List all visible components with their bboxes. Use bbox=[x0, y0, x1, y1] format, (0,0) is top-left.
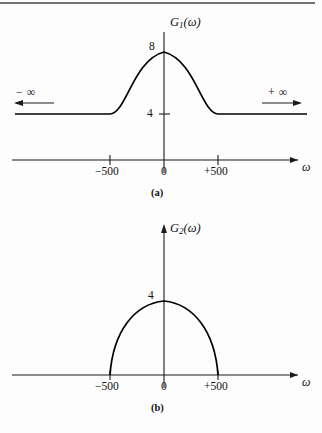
panel-a-negative-infinity-label: − ∞ bbox=[16, 86, 36, 98]
panel-a-x-axis-label: ω bbox=[302, 161, 310, 173]
panel-a-right-tail-arrowhead bbox=[293, 100, 302, 106]
panel-a-left-tail-arrowhead bbox=[14, 100, 23, 106]
panel-b-plot bbox=[0, 212, 322, 433]
panel-a-tick-label-minus500: −500 bbox=[95, 166, 119, 178]
panel-a-positive-infinity-label: + ∞ bbox=[268, 86, 288, 98]
panel-a-floor-value-label: 4 bbox=[147, 108, 153, 120]
panel-b-x-axis-arrowhead bbox=[290, 372, 298, 378]
panel-a-y-axis-label-base: G bbox=[170, 15, 179, 29]
chart-panel-b: G2(ω) 4 −500 0 +500 ω (b) bbox=[0, 212, 322, 433]
panel-b-y-axis-label-argument: (ω) bbox=[184, 221, 201, 235]
panel-b-y-axis-arrowhead bbox=[161, 224, 167, 233]
panel-a-tick-label-plus500: +500 bbox=[204, 166, 228, 178]
panel-a-y-axis-label-argument: (ω) bbox=[184, 15, 201, 29]
panel-b-x-axis-label: ω bbox=[302, 376, 310, 388]
panel-b-tick-label-minus500: −500 bbox=[95, 381, 119, 393]
panel-b-tick-label-plus500: +500 bbox=[204, 381, 228, 393]
panel-b-caption: (b) bbox=[151, 403, 164, 414]
panel-b-peak-value-label: 4 bbox=[148, 290, 154, 302]
panel-a-tick-label-zero: 0 bbox=[161, 166, 167, 178]
panel-a-peak-value-label: 8 bbox=[149, 41, 155, 53]
panel-b-tick-label-zero: 0 bbox=[161, 381, 167, 393]
panel-a-y-axis-label: G1(ω) bbox=[170, 16, 201, 30]
figure-root: G1(ω) 8 4 −500 0 +500 ω − ∞ + ∞ (a) G2(ω bbox=[0, 0, 322, 433]
panel-a-caption: (a) bbox=[151, 188, 163, 199]
chart-panel-a: G1(ω) 8 4 −500 0 +500 ω − ∞ + ∞ (a) bbox=[0, 0, 322, 212]
panel-b-y-axis-label-base: G bbox=[170, 221, 179, 235]
panel-a-data-curve bbox=[15, 52, 307, 114]
panel-a-x-axis-arrowhead bbox=[290, 157, 298, 163]
panel-b-y-axis-label: G2(ω) bbox=[170, 222, 201, 236]
panel-a-plot bbox=[0, 0, 322, 212]
